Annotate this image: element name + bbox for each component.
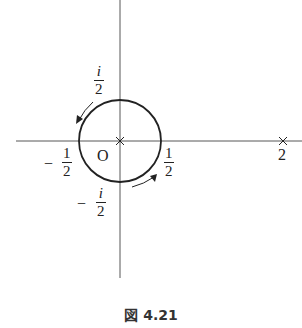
arrow-lower-right-icon bbox=[132, 174, 157, 187]
label-neg-i-half: i 2 bbox=[96, 186, 106, 219]
neg-half-sign: − bbox=[44, 155, 53, 173]
origin-label: O bbox=[97, 148, 109, 164]
label-half: 1 2 bbox=[164, 146, 174, 179]
label-two: 2 bbox=[278, 147, 286, 163]
label-i-half: i 2 bbox=[94, 64, 104, 97]
figure-caption: 図 4.21 bbox=[0, 304, 302, 324]
neg-i-half-sign: − bbox=[77, 195, 86, 213]
label-neg-half: 1 2 bbox=[62, 146, 72, 179]
